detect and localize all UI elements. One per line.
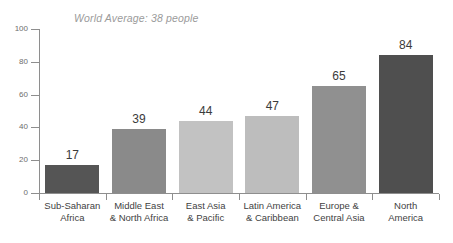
y-tick-label: 100 xyxy=(0,24,28,33)
bar-value-label: 47 xyxy=(245,99,299,113)
category-label-line: East Asia xyxy=(186,200,226,211)
y-tick-mark xyxy=(31,127,39,128)
category-label-line: Latin America xyxy=(244,200,302,211)
y-tick-label: 60 xyxy=(0,90,28,99)
bar[interactable] xyxy=(45,165,99,193)
category-label-line: Middle East xyxy=(114,200,164,211)
category-label-line: America xyxy=(362,212,449,224)
category-label-line: North xyxy=(394,200,417,211)
bar[interactable] xyxy=(379,55,433,193)
y-tick-mark xyxy=(31,62,39,63)
category-label-line: Europe & xyxy=(319,200,359,211)
bar[interactable] xyxy=(312,86,366,193)
bar[interactable] xyxy=(112,129,166,193)
y-tick-label: 80 xyxy=(0,57,28,66)
bar-chart: World Average: 38 people 020406080100 Su… xyxy=(0,0,453,243)
world-average-annotation: World Average: 38 people xyxy=(74,12,198,24)
y-tick-mark xyxy=(31,193,39,194)
bars-layer xyxy=(39,29,439,193)
bar[interactable] xyxy=(179,121,233,193)
bar-value-label: 65 xyxy=(312,69,366,83)
y-tick-mark xyxy=(31,160,39,161)
y-tick-mark xyxy=(31,29,39,30)
bar-value-label: 17 xyxy=(45,148,99,162)
y-tick-label: 40 xyxy=(0,122,28,131)
bar[interactable] xyxy=(245,116,299,193)
category-label-line: Sub-Saharan xyxy=(44,200,100,211)
bar-value-label: 84 xyxy=(379,38,433,52)
bar-value-label: 44 xyxy=(179,104,233,118)
y-tick-label: 20 xyxy=(0,155,28,164)
category-label: NorthAmerica xyxy=(362,200,449,223)
y-tick-label: 0 xyxy=(0,188,28,197)
y-tick-mark xyxy=(31,95,39,96)
bar-value-label: 39 xyxy=(112,112,166,126)
